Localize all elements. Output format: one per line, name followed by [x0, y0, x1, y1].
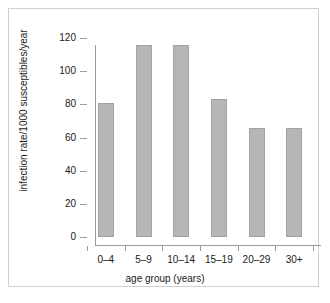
x-axis-tick	[125, 246, 126, 251]
x-axis-tick	[275, 246, 276, 251]
x-axis-tick	[162, 246, 163, 251]
y-axis-tick-label: 120	[9, 33, 76, 43]
y-axis-tick	[80, 138, 87, 139]
y-axis-tick-label: 40	[9, 166, 76, 176]
y-axis-tick	[80, 237, 87, 238]
bar-10–14	[173, 45, 189, 237]
x-axis-tick	[87, 246, 88, 251]
x-axis-tick-label: 0–4	[97, 254, 114, 265]
bar-15–19	[211, 99, 227, 237]
y-axis-tick	[80, 171, 87, 172]
y-axis-tick-label: 60	[9, 133, 76, 143]
y-axis-tick	[80, 104, 87, 105]
x-axis-title: age group (years)	[9, 273, 321, 284]
x-axis-tick-label: 10–14	[167, 254, 195, 265]
figure: infection rate/1000 susceptibles/year 02…	[0, 0, 330, 303]
y-axis-tick-label: 80	[9, 99, 76, 109]
x-axis-tick	[313, 246, 314, 251]
y-axis-tick	[80, 204, 87, 205]
y-axis-tick-label: 0	[9, 232, 76, 242]
chart-frame: infection rate/1000 susceptibles/year 02…	[8, 8, 319, 287]
x-axis-line	[95, 245, 321, 246]
y-axis-tick	[80, 71, 87, 72]
y-axis-tick	[80, 38, 87, 39]
plot-area	[87, 38, 313, 237]
bar-0–4	[98, 103, 114, 237]
y-axis-tick-label: 100	[9, 66, 76, 76]
x-axis-tick	[238, 246, 239, 251]
x-axis-tick-label: 5–9	[135, 254, 152, 265]
x-axis-tick-label: 20–29	[243, 254, 271, 265]
y-axis-tick-label: 20	[9, 199, 76, 209]
bar-20–29	[249, 128, 265, 237]
bar-5–9	[136, 45, 152, 237]
x-axis-tick-label: 30+	[286, 254, 303, 265]
x-axis-tick	[200, 246, 201, 251]
bar-30+	[286, 128, 302, 237]
x-axis-tick-label: 15–19	[205, 254, 233, 265]
